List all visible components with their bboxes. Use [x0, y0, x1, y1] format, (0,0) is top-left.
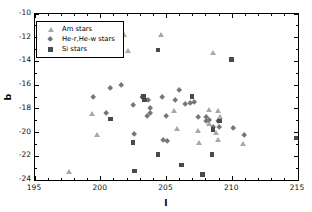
- axis-tick: [294, 156, 298, 157]
- axis-tick: [296, 97, 298, 98]
- scatter-point-square: [108, 117, 113, 122]
- diamond-marker-icon: [44, 37, 57, 41]
- y-tick-label: -24: [11, 175, 31, 183]
- scatter-point-diamond: [103, 110, 109, 116]
- legend-label-am-stars: Am stars: [62, 25, 92, 33]
- axis-tick: [294, 61, 298, 62]
- axis-tick: [140, 14, 141, 16]
- y-tick-label: -18: [11, 104, 31, 112]
- axis-tick: [258, 178, 259, 180]
- axis-tick: [245, 178, 246, 180]
- legend-row-am-stars: Am stars: [44, 25, 115, 34]
- axis-tick: [296, 25, 298, 26]
- scatter-point-triangle: [94, 132, 100, 137]
- axis-tick: [271, 178, 272, 180]
- scatter-point-diamond: [230, 125, 236, 131]
- scatter-point-diamond: [172, 97, 178, 103]
- axis-tick: [153, 178, 154, 180]
- scatter-point-triangle: [210, 50, 216, 55]
- legend-label-he-stars: He-r,He-w stars: [62, 35, 115, 43]
- scatter-point-square: [211, 127, 216, 132]
- scatter-point-square: [210, 152, 215, 157]
- legend-row-he-stars: He-r,He-w stars: [44, 35, 115, 44]
- axis-tick: [192, 178, 193, 180]
- axis-tick: [232, 14, 233, 18]
- axis-tick: [35, 144, 37, 145]
- y-tick-label: -20: [11, 128, 31, 136]
- axis-tick: [284, 178, 285, 180]
- scatter-point-diamond: [159, 94, 165, 100]
- axis-tick: [35, 120, 37, 121]
- axis-tick: [205, 178, 206, 180]
- axis-tick: [35, 132, 39, 133]
- axis-tick: [61, 178, 62, 180]
- axis-tick: [294, 85, 298, 86]
- scatter-point-triangle: [125, 48, 131, 53]
- axis-tick: [48, 178, 49, 180]
- y-tick-label: -14: [11, 56, 31, 64]
- scatter-point-diamond: [195, 114, 201, 120]
- y-tick-label: -10: [11, 9, 31, 17]
- axis-tick: [127, 14, 128, 16]
- axis-tick: [35, 14, 36, 18]
- axis-tick: [205, 14, 206, 16]
- axis-tick: [35, 156, 39, 157]
- y-tick-label: -22: [11, 151, 31, 159]
- scatter-point-diamond: [241, 132, 247, 138]
- axis-tick: [232, 176, 233, 180]
- axis-tick: [35, 97, 37, 98]
- axis-tick: [192, 14, 193, 16]
- axis-tick: [258, 14, 259, 16]
- axis-tick: [179, 14, 180, 16]
- axis-tick: [153, 14, 154, 16]
- axis-tick: [35, 14, 39, 15]
- scatter-point-square: [200, 172, 205, 177]
- y-tick-label: -16: [11, 80, 31, 88]
- axis-tick: [166, 14, 167, 18]
- scatter-point-square: [294, 136, 299, 141]
- axis-tick: [284, 14, 285, 16]
- triangle-marker-icon: [44, 27, 57, 32]
- axis-tick: [296, 49, 298, 50]
- axis-tick: [219, 178, 220, 180]
- axis-tick: [35, 168, 37, 169]
- axis-tick: [48, 14, 49, 16]
- scatter-point-diamond: [192, 99, 198, 105]
- axis-tick: [296, 144, 298, 145]
- axis-tick: [271, 14, 272, 16]
- legend-row-si-stars: Si stars: [44, 45, 115, 54]
- axis-tick: [74, 14, 75, 16]
- scatter-point-square: [156, 152, 161, 157]
- scatter-point-triangle: [196, 140, 202, 145]
- axis-tick: [87, 178, 88, 180]
- scatter-chart-figure: b l Am stars He-r,He-w stars Si stars 19…: [0, 0, 312, 212]
- scatter-point-diamond: [90, 94, 96, 100]
- scatter-point-square: [179, 163, 184, 168]
- x-tick-label: 210: [224, 184, 238, 192]
- axis-tick: [179, 178, 180, 180]
- legend: Am stars He-r,He-w stars Si stars: [36, 21, 124, 58]
- scatter-point-triangle: [195, 128, 201, 133]
- axis-tick: [35, 73, 37, 74]
- scatter-point-diamond: [118, 82, 124, 88]
- scatter-point-square: [190, 94, 195, 99]
- scatter-point-square: [131, 140, 136, 145]
- x-axis-label: l: [164, 198, 167, 208]
- scatter-point-triangle: [89, 111, 95, 116]
- axis-tick: [294, 14, 298, 15]
- scatter-point-diamond: [164, 138, 170, 144]
- axis-tick: [35, 61, 39, 62]
- scatter-point-square: [217, 119, 222, 124]
- axis-tick: [100, 14, 101, 18]
- axis-tick: [294, 108, 298, 109]
- scatter-point-triangle: [240, 141, 246, 146]
- y-axis-label: b: [3, 94, 13, 101]
- axis-tick: [245, 14, 246, 16]
- axis-tick: [296, 73, 298, 74]
- x-tick-label: 205: [158, 184, 172, 192]
- scatter-point-triangle: [215, 137, 221, 142]
- scatter-point-diamond: [131, 131, 137, 137]
- square-marker-icon: [44, 47, 57, 52]
- scatter-point-diamond: [107, 85, 113, 91]
- x-tick-label: 215: [290, 184, 304, 192]
